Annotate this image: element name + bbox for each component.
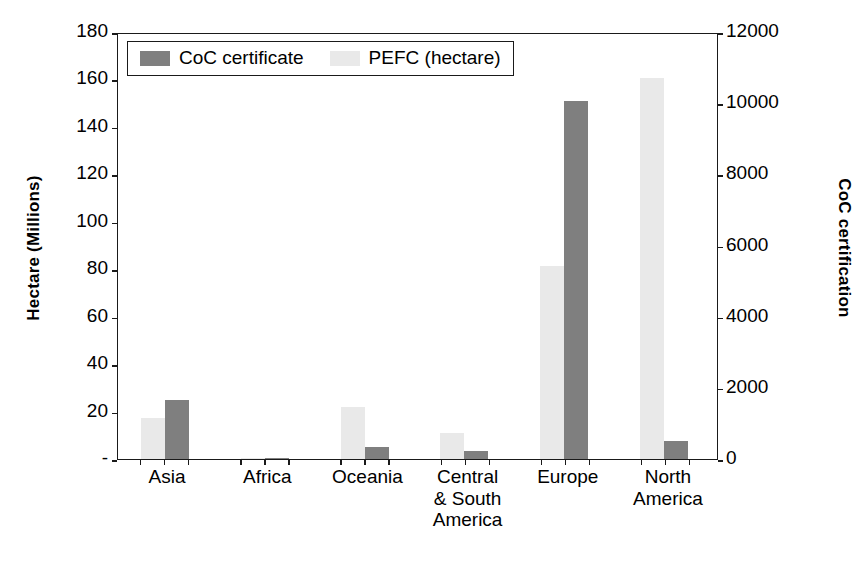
y-axis-right-tick-mark [718, 175, 723, 177]
x-axis-category-label-line: Europe [520, 466, 616, 488]
y-axis-left-tick-mark [112, 223, 117, 225]
bar-group [118, 34, 218, 459]
y-axis-left-tick-mark [112, 33, 117, 35]
y-axis-right-tick-label: 10000 [726, 91, 779, 113]
y-axis-left-tick-mark [112, 80, 117, 82]
x-axis-tick-mark [264, 460, 265, 465]
x-axis-tick-mark [541, 460, 542, 465]
legend-label: PEFC (hectare) [369, 47, 501, 69]
chart-legend: CoC certificatePEFC (hectare) [127, 41, 514, 76]
x-axis-tick-mark [641, 460, 642, 465]
x-axis-tick-mark [565, 460, 566, 465]
y-axis-left-tick-label: 140 [52, 115, 108, 137]
y-axis-left-tick-label: 40 [52, 352, 108, 374]
x-axis-category-labels: AsiaAfricaOceaniaCentral& SouthAmericaEu… [117, 466, 718, 531]
x-axis-tick-mark [489, 460, 490, 465]
y-axis-left-tick-mark [112, 413, 117, 415]
legend-swatch-pefc [330, 51, 360, 66]
y-axis-right-tick-mark [718, 104, 723, 106]
y-axis-right-tick-label: 6000 [726, 234, 768, 256]
x-axis-category-label: Asia [117, 466, 217, 531]
y-axis-left-tick-mark [112, 270, 117, 272]
y-axis-left-tick-mark [112, 318, 117, 320]
x-axis-category-label: NorthAmerica [618, 466, 718, 531]
y-axis-left-tick-label: 80 [52, 257, 108, 279]
bar-group [417, 34, 517, 459]
legend-entry: CoC certificate [140, 47, 304, 69]
x-axis-tick-mark [288, 460, 289, 465]
y-axis-left-tick-mark [112, 128, 117, 130]
legend-label: CoC certificate [179, 47, 304, 69]
x-axis-category-label-line: America [620, 488, 716, 510]
bar-groups [118, 34, 717, 459]
x-axis-category-label-line: North [620, 466, 716, 488]
bar-pefc-hectare [141, 418, 165, 460]
y-axis-right-tick-label: 4000 [726, 305, 768, 327]
x-axis-category-label-line: Africa [219, 466, 315, 488]
bar-coc-certificate [365, 447, 389, 459]
legend-swatch-coc [140, 51, 170, 66]
bar-group [218, 34, 318, 459]
bar-group [617, 34, 717, 459]
x-axis-tick-mark [164, 460, 165, 465]
bar-pefc-hectare [241, 458, 265, 459]
y-axis-left-tick-mark [112, 460, 117, 462]
bar-group [517, 34, 617, 459]
y-axis-right-ticks: 020004000600080001000012000 [726, 0, 806, 561]
plot-area [117, 33, 718, 460]
bar-coc-certificate [664, 441, 688, 459]
x-axis-tick-mark [665, 460, 666, 465]
y-axis-left-tick-label: 20 [52, 400, 108, 422]
x-axis-category-label: Oceania [317, 466, 417, 531]
bar-group [318, 34, 418, 459]
x-axis-tick-mark [589, 460, 590, 465]
x-axis-tick-mark [441, 460, 442, 465]
y-axis-left-ticks: -20406080100120140160180 [48, 0, 108, 561]
bar-coc-certificate [464, 451, 488, 459]
chart-figure: Hectare (Millions) CoC certification -20… [0, 0, 868, 561]
x-axis-category-label-line: Asia [119, 466, 215, 488]
x-axis-category-label-line: & South [420, 488, 516, 510]
y-axis-right-tick-mark [718, 389, 723, 391]
y-axis-right-tick-mark [718, 33, 723, 35]
y-axis-left-title: Hectare (Millions) [24, 128, 44, 368]
x-axis-tick-mark [188, 460, 189, 465]
y-axis-right-tick-label: 2000 [726, 376, 768, 398]
y-axis-left-tick-label: 60 [52, 305, 108, 327]
x-axis-tick-mark [240, 460, 241, 465]
bar-pefc-hectare [640, 78, 664, 459]
x-axis-category-label-line: Oceania [319, 466, 415, 488]
x-axis-tick-mark [388, 460, 389, 465]
y-axis-right-tick-mark [718, 460, 723, 462]
x-axis-tick-mark [689, 460, 690, 465]
y-axis-right-tick-mark [718, 247, 723, 249]
y-axis-right-tick-label: 12000 [726, 20, 779, 42]
bar-coc-certificate [165, 400, 189, 459]
y-axis-left-tick-label: 120 [52, 162, 108, 184]
y-axis-left-tick-label: 160 [52, 67, 108, 89]
x-axis-category-label: Europe [518, 466, 618, 531]
x-axis-category-label-line: America [420, 509, 516, 531]
y-axis-right-tick-label: 0 [726, 447, 737, 469]
y-axis-right-title: CoC certification [834, 128, 854, 368]
x-axis-category-label-line: Central [420, 466, 516, 488]
y-axis-left-tick-label: - [52, 447, 108, 469]
x-axis-tick-mark [140, 460, 141, 465]
bar-pefc-hectare [341, 407, 365, 459]
x-axis-tick-mark [340, 460, 341, 465]
y-axis-left-tick-mark [112, 365, 117, 367]
y-axis-left-tick-mark [112, 175, 117, 177]
x-axis-category-label: Central& SouthAmerica [418, 466, 518, 531]
bar-coc-certificate [265, 458, 289, 459]
y-axis-left-tick-label: 100 [52, 210, 108, 232]
x-axis-category-label: Africa [217, 466, 317, 531]
x-axis-tick-mark [364, 460, 365, 465]
x-axis-tick-mark [465, 460, 466, 465]
y-axis-right-tick-mark [718, 318, 723, 320]
y-axis-right-tick-label: 8000 [726, 162, 768, 184]
y-axis-left-tick-label: 180 [52, 20, 108, 42]
bar-pefc-hectare [440, 433, 464, 459]
bar-pefc-hectare [540, 266, 564, 459]
bar-coc-certificate [564, 101, 588, 459]
legend-entry: PEFC (hectare) [330, 47, 501, 69]
